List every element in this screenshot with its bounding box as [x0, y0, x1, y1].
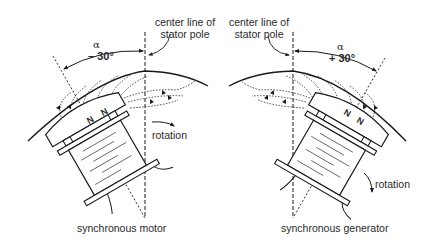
motor-diagram	[28, 32, 208, 223]
rotor-assembly	[265, 86, 401, 228]
motor-center-line-label: center line of stator pole	[148, 16, 222, 40]
generator-angle-value: + 30°	[329, 52, 355, 64]
generator-rotation-label: rotation	[375, 178, 410, 190]
generator-caption: synchronous generator	[281, 222, 388, 234]
label-line-1: center line of	[222, 16, 296, 28]
rotation-arrow	[364, 173, 372, 192]
generator-diagram	[229, 32, 406, 228]
label-line-1: center line of	[148, 16, 222, 28]
label-line-2: stator pole	[222, 28, 296, 40]
motor-rotation-label: rotation	[152, 129, 187, 141]
motor-angle-value: – 30°	[88, 50, 114, 62]
motor-caption: synchronous motor	[77, 222, 166, 234]
rotation-arrow	[152, 122, 174, 126]
generator-center-line-label: center line of stator pole	[222, 16, 296, 40]
label-line-2: stator pole	[148, 28, 222, 40]
